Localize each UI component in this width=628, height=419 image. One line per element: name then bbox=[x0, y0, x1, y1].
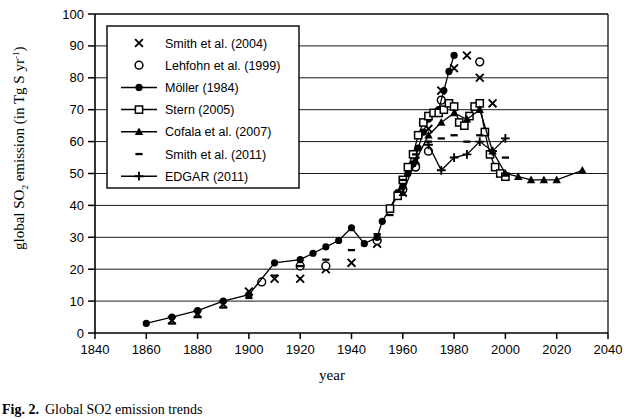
y-tick-label: 90 bbox=[70, 38, 84, 53]
y-tick-label: 0 bbox=[77, 326, 84, 341]
y-tick-label: 50 bbox=[70, 166, 84, 181]
legend-label: Möller (1984) bbox=[165, 81, 239, 95]
x-tick-label: 1840 bbox=[81, 342, 110, 357]
x-tick-label: 2040 bbox=[594, 342, 623, 357]
x-tick-label: 1880 bbox=[183, 342, 212, 357]
x-tick-label: 1900 bbox=[234, 342, 263, 357]
figure-caption: Fig. 2.Global SO2 emission trends bbox=[2, 402, 202, 417]
svg-text:Fig. 2.Global SO2 emission tre: Fig. 2.Global SO2 emission trends bbox=[2, 402, 202, 417]
legend-label: Stern (2005) bbox=[165, 103, 234, 117]
x-tick-label: 1860 bbox=[132, 342, 161, 357]
x-tick-label: 1940 bbox=[337, 342, 366, 357]
y-tick-label: 100 bbox=[62, 7, 84, 22]
x-tick-label: 2020 bbox=[542, 342, 571, 357]
y-tick-label: 60 bbox=[70, 134, 84, 149]
legend-label: Lehfohn et al. (1999) bbox=[165, 59, 280, 73]
y-tick-label: 70 bbox=[70, 102, 84, 117]
x-tick-label: 1980 bbox=[440, 342, 469, 357]
chart-legend: Smith et al. (2004)Lehfohn et al. (1999)… bbox=[107, 26, 299, 188]
y-tick-label: 30 bbox=[70, 230, 84, 245]
y-tick-label: 40 bbox=[70, 198, 84, 213]
legend-label: EDGAR (2011) bbox=[165, 170, 248, 184]
x-axis-title: year bbox=[319, 367, 345, 383]
legend-label: Smith et al. (2004) bbox=[165, 37, 267, 51]
so2-emission-chart: 0102030405060708090100 18401860188019001… bbox=[0, 0, 628, 419]
x-tick-label: 1920 bbox=[286, 342, 315, 357]
legend-label: Cofala et al. (2007) bbox=[165, 125, 271, 139]
x-tick-label: 2000 bbox=[491, 342, 520, 357]
legend-label: Smith et al. (2011) bbox=[165, 148, 266, 162]
y-tick-label: 80 bbox=[70, 70, 84, 85]
x-tick-label: 1960 bbox=[388, 342, 417, 357]
y-tick-label: 20 bbox=[70, 262, 84, 277]
y-tick-label: 10 bbox=[70, 294, 84, 309]
figure-container: 0102030405060708090100 18401860188019001… bbox=[0, 0, 628, 419]
